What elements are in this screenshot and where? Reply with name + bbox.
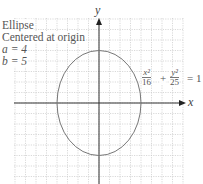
param-a: a = 4: [2, 43, 27, 55]
title-line-2: Centered at origin: [2, 31, 85, 43]
x-axis-arrow-icon: [179, 100, 186, 106]
equation-term-x: x² 16: [142, 68, 151, 87]
equation-equals: = 1: [187, 72, 201, 84]
term1-denominator: 16: [142, 78, 151, 87]
equation-plus: +: [160, 72, 166, 84]
term2-denominator: 25: [170, 78, 179, 87]
param-b: b = 5: [2, 55, 27, 67]
title-line-1: Ellipse: [2, 19, 34, 31]
y-axis-label: y: [95, 3, 100, 18]
equation-term-y: y² 25: [170, 68, 179, 87]
x-axis-label: x: [188, 95, 193, 110]
